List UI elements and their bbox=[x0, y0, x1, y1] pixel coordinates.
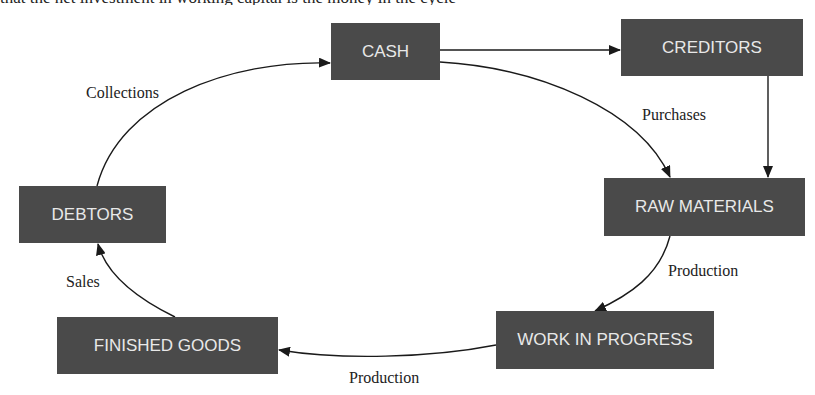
node-work-in-progress-label: WORK IN PROGRESS bbox=[517, 330, 693, 350]
label-production-wip-to-finished: Production bbox=[349, 369, 419, 387]
edge-cash-to-raw-materials bbox=[440, 62, 670, 177]
node-finished-goods-label: FINISHED GOODS bbox=[94, 336, 241, 356]
label-collections: Collections bbox=[86, 84, 159, 102]
edge-debtors-to-cash bbox=[97, 63, 330, 186]
node-raw-materials: RAW MATERIALS bbox=[604, 178, 805, 236]
node-cash: CASH bbox=[331, 23, 440, 80]
label-production-raw-to-wip: Production bbox=[668, 262, 738, 280]
node-finished-goods: FINISHED GOODS bbox=[57, 317, 278, 374]
edge-raw-materials-to-wip bbox=[595, 236, 670, 311]
label-purchases: Purchases bbox=[642, 106, 706, 124]
node-creditors: CREDITORS bbox=[621, 19, 803, 76]
edge-finished-goods-to-debtors bbox=[98, 244, 175, 317]
node-raw-materials-label: RAW MATERIALS bbox=[635, 197, 774, 217]
node-debtors: DEBTORS bbox=[19, 186, 166, 243]
node-creditors-label: CREDITORS bbox=[662, 38, 762, 58]
label-sales: Sales bbox=[66, 273, 100, 291]
edge-wip-to-finished-goods bbox=[279, 345, 496, 356]
node-cash-label: CASH bbox=[362, 42, 409, 62]
node-debtors-label: DEBTORS bbox=[52, 205, 134, 225]
node-work-in-progress: WORK IN PROGRESS bbox=[496, 311, 714, 369]
